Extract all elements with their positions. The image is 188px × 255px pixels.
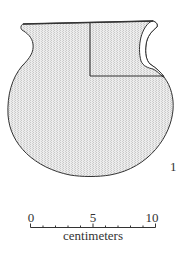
- scale-tick-label-10: 10: [146, 210, 159, 225]
- pottery-figure: 1 0 5 10 centimeters: [0, 0, 188, 255]
- scale-tick-label-0: 0: [28, 210, 35, 225]
- scale-tick-label-5: 5: [90, 210, 97, 225]
- scale-bar: 0 5 10 centimeters: [28, 210, 159, 243]
- vessel-number-label: 1: [170, 159, 177, 174]
- scale-unit-label: centimeters: [63, 228, 123, 243]
